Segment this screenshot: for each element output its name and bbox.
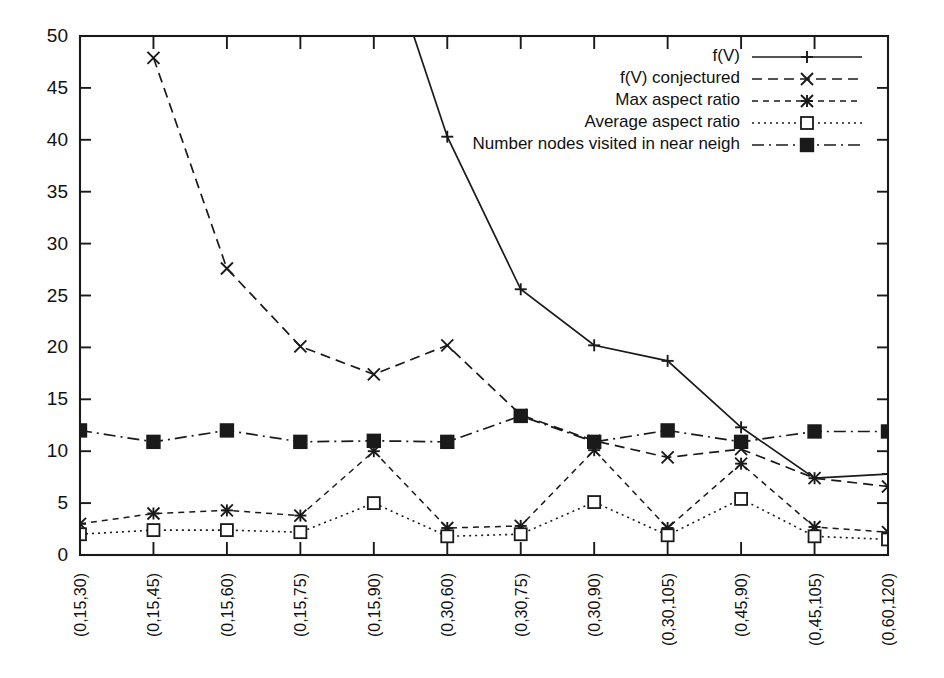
x-axis-tick-label: (0,30,90): [586, 573, 603, 637]
y-axis-tick-label: 15: [47, 388, 68, 409]
data-point-marker: [515, 528, 527, 540]
data-point-marker: [147, 435, 160, 448]
data-point-marker: [441, 435, 454, 448]
data-point-marker: [808, 425, 821, 438]
y-axis-tick-label: 50: [47, 25, 68, 46]
legend-label: Average aspect ratio: [584, 112, 740, 131]
data-point-marker: [662, 529, 674, 541]
data-point-marker: [809, 530, 821, 542]
y-axis-tick-label: 0: [57, 544, 68, 565]
y-axis-tick-label: 45: [47, 77, 68, 98]
legend-marker: [801, 117, 813, 129]
y-axis-tick-label: 40: [47, 129, 68, 150]
data-point-marker: [588, 435, 601, 448]
x-axis-tick-label: (0,15,75): [292, 573, 309, 637]
data-point-marker: [735, 435, 748, 448]
data-point-marker: [514, 409, 527, 422]
x-axis-tick-label: (0,15,45): [145, 573, 162, 637]
x-axis-tick-label: (0,60,120): [880, 573, 897, 646]
x-axis-tick-label: (0,15,30): [72, 573, 89, 637]
legend-label: f(V) conjectured: [620, 68, 740, 87]
data-point-marker: [221, 524, 233, 536]
legend-label: Max aspect ratio: [615, 90, 740, 109]
y-axis-tick-label: 10: [47, 440, 68, 461]
data-point-marker: [367, 434, 380, 447]
y-axis-tick-label: 20: [47, 336, 68, 357]
data-point-marker: [441, 530, 453, 542]
x-axis-tick-label: (0,30,75): [513, 573, 530, 637]
y-axis-tick-label: 25: [47, 285, 68, 306]
x-axis-tick-label: (0,30,60): [439, 573, 456, 637]
data-point-marker: [220, 424, 233, 437]
legend-marker: [801, 139, 814, 152]
y-axis-tick-label: 35: [47, 181, 68, 202]
y-axis-tick-label: 5: [57, 492, 68, 513]
line-chart: 05101520253035404550 f(V)f(V) conjecture…: [0, 0, 944, 678]
data-point-marker: [294, 526, 306, 538]
data-point-marker: [588, 496, 600, 508]
x-axis-tick-label: (0,15,90): [366, 573, 383, 637]
data-point-marker: [147, 524, 159, 536]
data-point-marker: [661, 424, 674, 437]
legend-label: f(V): [713, 46, 740, 65]
data-point-marker: [294, 435, 307, 448]
x-axis-tick-label: (0,15,60): [219, 573, 236, 637]
chart-container: 05101520253035404550 f(V)f(V) conjecture…: [0, 0, 944, 678]
x-axis-tick-label: (0,45,105): [807, 573, 824, 646]
data-point-marker: [368, 497, 380, 509]
x-axis-tick-label: (0,45,90): [733, 573, 750, 637]
y-axis-tick-label: 30: [47, 233, 68, 254]
data-point-marker: [735, 493, 747, 505]
legend-label: Number nodes visited in near neigh: [473, 134, 740, 153]
x-axis-tick-label: (0,30,105): [660, 573, 677, 646]
